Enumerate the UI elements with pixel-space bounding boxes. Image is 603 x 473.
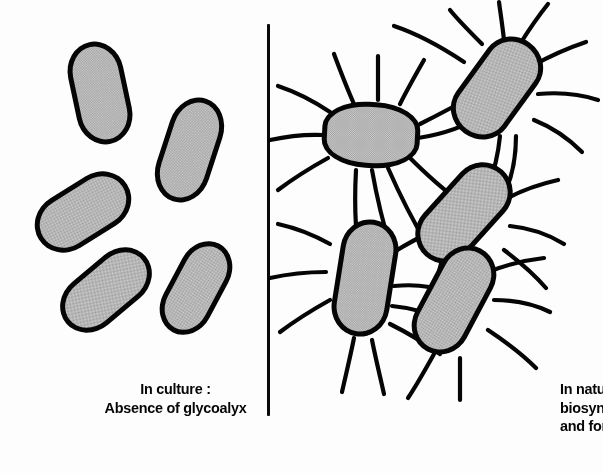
panel-in-culture: In culture : Absence of glycoalyx (0, 0, 268, 473)
bacterium-cell (150, 232, 243, 345)
caption-left-line2: Absence of glycoalyx (94, 399, 257, 418)
bacteria-glycocalyx-figure: In culture : Absence of glycoalyx (0, 0, 603, 473)
caption-in-nature: In nature : biosynthesis of glycoalyx an… (560, 380, 603, 436)
caption-right-line1: In nature : (560, 380, 603, 399)
scan-layer: In culture : Absence of glycoalyx (0, 0, 603, 473)
caption-left-line1: In culture : (94, 380, 257, 399)
caption-in-culture: In culture : Absence of glycoalyx (94, 380, 257, 417)
bacterium-cell (147, 90, 233, 210)
bacterium-cell (62, 36, 138, 149)
bacterium-cell (320, 99, 421, 170)
caption-right-line2: biosynthesis of glycoalyx (560, 399, 603, 418)
panel-in-nature: In nature : biosynthesis of glycoalyx an… (268, 0, 603, 473)
caption-right-line3: and formation of agglomerates (560, 417, 603, 436)
